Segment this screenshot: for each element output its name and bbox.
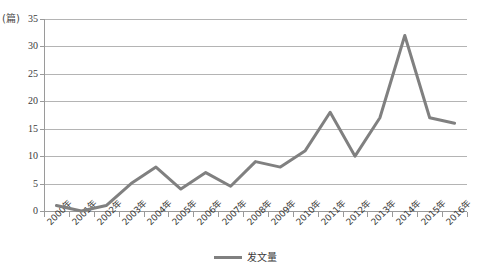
y-tick-label-15: 15 xyxy=(16,124,38,134)
x-tick-9 xyxy=(268,212,269,217)
x-tick-1 xyxy=(69,212,70,217)
y-tick-label-wrap-5: 5 xyxy=(0,179,38,189)
x-tick-4 xyxy=(144,212,145,217)
y-tick-20 xyxy=(40,101,45,102)
x-tick-2 xyxy=(94,212,95,217)
y-tick-label-wrap-30: 30 xyxy=(0,41,38,51)
x-tick-8 xyxy=(243,212,244,217)
legend-line-swatch xyxy=(214,256,242,259)
y-tick-label-5: 5 xyxy=(16,179,38,189)
y-tick-label-30: 30 xyxy=(16,41,38,51)
y-tick-label-wrap-20: 20 xyxy=(0,96,38,106)
gridline-15 xyxy=(44,129,467,130)
y-tick-label-35: 35 xyxy=(16,14,38,24)
y-tick-10 xyxy=(40,156,45,157)
x-tick-11 xyxy=(318,212,319,217)
y-tick-30 xyxy=(40,46,45,47)
publication-count-line-chart: (篇) 05101520253035 2000年2001年2002年2003年2… xyxy=(0,0,491,272)
y-tick-label-wrap-35: 35 xyxy=(0,14,38,24)
x-tick-3 xyxy=(119,212,120,217)
x-tick-10 xyxy=(293,212,294,217)
y-tick-15 xyxy=(40,129,45,130)
y-tick-35 xyxy=(40,19,45,20)
x-tick-13 xyxy=(367,212,368,217)
x-tick-15 xyxy=(417,212,418,217)
y-tick-label-wrap-25: 25 xyxy=(0,69,38,79)
x-tick-16 xyxy=(442,212,443,217)
gridline-30 xyxy=(44,46,467,47)
legend-label-publications: 发文量 xyxy=(247,252,277,263)
chart-legend: 发文量 xyxy=(0,252,491,263)
x-tick-17 xyxy=(467,212,468,217)
y-tick-25 xyxy=(40,74,45,75)
gridline-20 xyxy=(44,101,467,102)
y-tick-label-wrap-0: 0 xyxy=(0,206,38,216)
x-tick-0 xyxy=(44,212,45,217)
y-tick-label-10: 10 xyxy=(16,151,38,161)
gridline-35 xyxy=(44,19,467,20)
y-tick-label-25: 25 xyxy=(16,69,38,79)
plot-area xyxy=(44,19,467,211)
gridline-25 xyxy=(44,74,467,75)
gridline-5 xyxy=(44,184,467,185)
x-tick-14 xyxy=(392,212,393,217)
x-tick-6 xyxy=(193,212,194,217)
y-tick-label-wrap-10: 10 xyxy=(0,151,38,161)
y-tick-label-0: 0 xyxy=(16,206,38,216)
x-tick-7 xyxy=(218,212,219,217)
y-tick-label-wrap-15: 15 xyxy=(0,124,38,134)
gridline-10 xyxy=(44,156,467,157)
x-tick-12 xyxy=(343,212,344,217)
x-tick-5 xyxy=(168,212,169,217)
y-tick-5 xyxy=(40,184,45,185)
y-tick-label-20: 20 xyxy=(16,96,38,106)
